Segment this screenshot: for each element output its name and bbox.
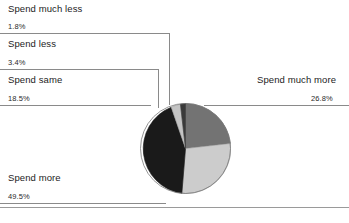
pie-slice-spend-much-more[interactable]: [186, 103, 231, 148]
bottom-divider: [0, 207, 349, 208]
label-spend-less: Spend less: [8, 38, 56, 49]
pie-graphic: [140, 103, 231, 194]
value-spend-less: 3.4%: [8, 58, 26, 67]
label-spend-much-more: Spend much more: [257, 74, 336, 85]
leader-line-spend-much-more-horizontal: [204, 105, 349, 106]
pie-slice-spend-more[interactable]: [182, 143, 231, 193]
value-spend-same: 18.5%: [8, 94, 30, 103]
leader-line-spend-much-less-horizontal: [0, 33, 170, 34]
pie-chart-figure: Spend much less 1.8% Spend less 3.4% Spe…: [0, 0, 349, 223]
leader-line-spend-less-vertical: [158, 69, 159, 108]
label-spend-same: Spend same: [8, 74, 62, 85]
leader-line-spend-more-horizontal: [0, 203, 166, 204]
leader-line-spend-much-less-vertical: [169, 33, 170, 105]
value-spend-much-less: 1.8%: [8, 22, 26, 31]
pie-svg: [140, 103, 231, 194]
value-spend-much-more: 26.8%: [311, 94, 333, 103]
value-spend-more: 49.5%: [8, 192, 30, 201]
leader-line-spend-less-horizontal: [0, 69, 159, 70]
leader-line-spend-same-horizontal: [0, 105, 151, 106]
label-spend-more: Spend more: [8, 172, 61, 183]
label-spend-much-less: Spend much less: [8, 3, 82, 14]
